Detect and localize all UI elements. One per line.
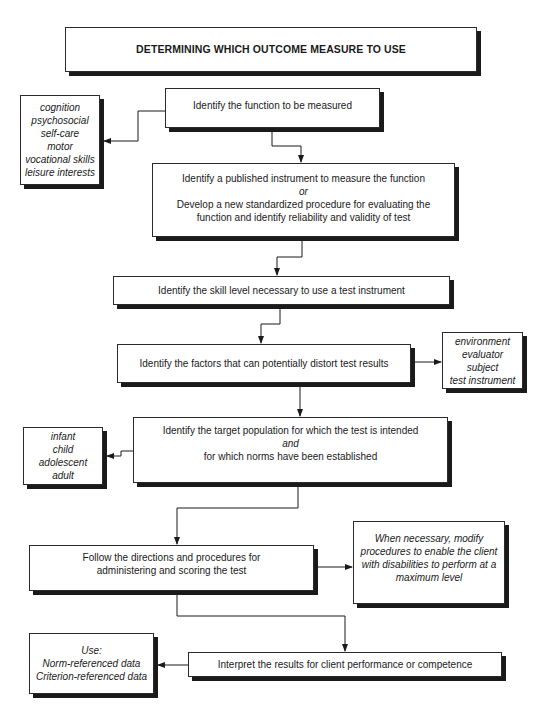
note-line: maximum level	[396, 571, 463, 584]
arrow-to-factors	[261, 308, 280, 343]
step-identify-instrument: Identify a published instrument to measu…	[152, 163, 455, 237]
arrow-to-skill	[277, 240, 302, 275]
title-box: DETERMINING WHICH OUTCOME MEASURE TO USE	[65, 27, 477, 72]
connector-word: or	[299, 185, 308, 198]
modify-procedures-note: When necessary, modify procedures to ena…	[353, 521, 505, 604]
list-item: leisure interests	[25, 166, 95, 179]
step-identify-population: Identify the target population for which…	[133, 417, 448, 483]
list-item: adult	[52, 469, 74, 482]
step-text: function and identify reliability and va…	[197, 211, 410, 224]
step-text: for which norms have been established	[204, 450, 377, 463]
step-identify-skill-level: Identify the skill level necessary to us…	[113, 276, 450, 305]
list-item: vocational skills	[25, 153, 94, 166]
list-item: cognition	[40, 101, 80, 114]
step-text: administering and scoring the test	[97, 564, 247, 577]
list-item: adolescent	[39, 456, 87, 469]
use-data-note: Use: Norm-referenced data Criterion-refe…	[29, 633, 154, 694]
step-text: Interpret the results for client perform…	[218, 658, 473, 671]
step-identify-factors: Identify the factors that can potentiall…	[117, 344, 411, 383]
step-text: Identify the skill level necessary to us…	[158, 284, 405, 297]
note-line: When necessary, modify	[375, 532, 484, 545]
note-line: Norm-referenced data	[43, 657, 141, 670]
list-item: subject	[467, 361, 499, 374]
note-line: procedures to enable the client	[361, 545, 498, 558]
step-text: Identify the function to be measured	[193, 99, 352, 112]
list-item: self-care	[41, 127, 79, 140]
connector-word: and	[282, 437, 299, 450]
functions-list: cognition psychosocial self-care motor v…	[20, 95, 100, 185]
note-line: Use:	[81, 644, 102, 657]
step-text: Identify the target population for which…	[163, 424, 419, 437]
step-interpret-results: Interpret the results for client perform…	[188, 652, 502, 677]
list-item: psychosocial	[31, 114, 88, 127]
note-line: with disabilities to perform at a	[362, 558, 497, 571]
step-identify-function: Identify the function to be measured	[165, 88, 380, 128]
arrow-to-populations-list	[107, 451, 133, 456]
arrow-to-interpret	[177, 594, 345, 651]
list-item: environment	[455, 335, 510, 348]
note-line: Criterion-referenced data	[36, 670, 147, 683]
arrow-to-functions-list	[104, 111, 165, 141]
list-item: child	[53, 443, 74, 456]
list-item: infant	[51, 430, 75, 443]
arrow-to-directions	[177, 486, 298, 544]
step-text: Identify a published instrument to measu…	[182, 172, 425, 185]
step-text: Identify the factors that can potentiall…	[139, 357, 388, 370]
page-title: DETERMINING WHICH OUTCOME MEASURE TO USE	[136, 43, 406, 56]
step-text: Develop a new standardized procedure for…	[177, 198, 431, 211]
list-item: test instrument	[450, 374, 516, 387]
list-item: evaluator	[462, 348, 503, 361]
distortion-factors-list: environment evaluator subject test instr…	[442, 332, 523, 389]
populations-list: infant child adolescent adult	[23, 427, 103, 485]
list-item: motor	[47, 140, 73, 153]
arrow-to-instrument	[272, 128, 301, 162]
step-text: Follow the directions and procedures for	[83, 551, 261, 564]
step-follow-directions: Follow the directions and procedures for…	[29, 545, 314, 591]
